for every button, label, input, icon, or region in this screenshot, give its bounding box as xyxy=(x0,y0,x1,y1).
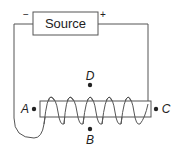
point-a-label: A xyxy=(20,102,29,116)
point-c-dot xyxy=(154,107,158,111)
source-label: Source xyxy=(45,16,86,31)
point-d-label: D xyxy=(86,69,95,83)
point-b-label: B xyxy=(86,133,94,147)
solenoid-circuit-diagram: Source − + A B C D xyxy=(0,0,178,155)
point-c-label: C xyxy=(162,102,171,116)
point-d-dot xyxy=(88,83,92,87)
point-b-dot xyxy=(88,127,92,131)
point-a-dot xyxy=(32,107,36,111)
left-wire xyxy=(14,24,44,138)
negative-terminal-sign: − xyxy=(23,9,29,20)
positive-terminal-sign: + xyxy=(100,9,106,20)
right-wire xyxy=(98,24,148,104)
